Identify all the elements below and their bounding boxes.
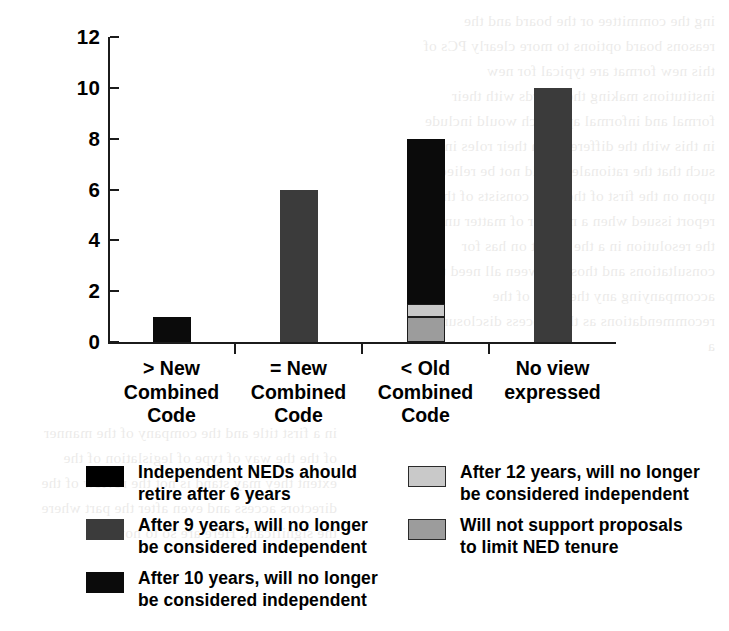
y-tick-label: 4	[88, 228, 100, 252]
x-category-label: > NewCombinedCode	[124, 357, 219, 428]
y-tick-label: 10	[77, 76, 100, 100]
legend-label: Will not support proposals to limit NED …	[460, 515, 683, 558]
legend-column-right: After 12 years, will no longer be consid…	[408, 462, 708, 568]
y-axis-line	[108, 37, 110, 344]
legend-swatch	[408, 466, 446, 487]
plot-area: 024681012	[108, 37, 616, 343]
x-category-label-line: < Old	[378, 357, 473, 381]
y-tick-label: 12	[77, 25, 100, 49]
x-category-label: < OldCombinedCode	[378, 357, 473, 428]
y-tick-mark	[110, 189, 119, 191]
legend-label: After 12 years, will no longer be consid…	[460, 462, 700, 505]
y-tick-mark	[110, 290, 119, 292]
bar-stack[interactable]	[534, 88, 572, 342]
x-category-label-line: Combined	[124, 381, 219, 405]
bar-segment	[407, 304, 445, 317]
bar-segment	[153, 317, 191, 342]
bar-segment	[407, 317, 445, 342]
bar-stack[interactable]	[153, 317, 191, 342]
x-category-label-line: Combined	[251, 381, 346, 405]
y-tick-label: 2	[88, 279, 100, 303]
x-category-label-line: = New	[251, 357, 346, 381]
y-tick-label: 0	[88, 330, 100, 354]
x-category-label-line: expressed	[504, 381, 600, 405]
y-tick-mark	[110, 341, 119, 343]
bar-chart: Number of Institutions 024681012 > NewCo…	[0, 0, 729, 631]
legend-item[interactable]: After 9 years, will no longer be conside…	[86, 515, 396, 558]
legend-item[interactable]: Will not support proposals to limit NED …	[408, 515, 708, 558]
legend-item[interactable]: Independent NEDs ahould retire after 6 y…	[86, 462, 396, 505]
x-category-label: No viewexpressed	[504, 357, 600, 404]
legend-label: Independent NEDs ahould retire after 6 y…	[138, 462, 357, 505]
x-category-label: = NewCombinedCode	[251, 357, 346, 428]
legend-label: After 9 years, will no longer be conside…	[138, 515, 368, 558]
y-tick-mark	[110, 138, 119, 140]
x-category-label-line: Code	[378, 404, 473, 428]
y-tick-label: 8	[88, 127, 100, 151]
bar-segment	[534, 88, 572, 342]
y-tick-mark	[110, 239, 119, 241]
x-category-label-line: No view	[504, 357, 600, 381]
y-tick-mark	[110, 36, 119, 38]
legend-swatch	[86, 572, 124, 593]
x-category-label-line: Code	[251, 404, 346, 428]
x-tick-mark	[488, 344, 490, 354]
legend-item[interactable]: After 12 years, will no longer be consid…	[408, 462, 708, 505]
legend-swatch	[408, 519, 446, 540]
x-axis-category-labels: > NewCombinedCode= NewCombinedCode< OldC…	[108, 357, 616, 435]
x-category-label-line: Combined	[378, 381, 473, 405]
x-tick-mark	[361, 344, 363, 354]
legend-item[interactable]: After 10 years, will no longer be consid…	[86, 568, 396, 611]
x-category-label-line: > New	[124, 357, 219, 381]
legend-swatch	[86, 519, 124, 540]
bar-stack[interactable]	[280, 190, 318, 343]
bar-segment	[407, 139, 445, 304]
legend-label: After 10 years, will no longer be consid…	[138, 568, 378, 611]
x-tick-mark	[234, 344, 236, 354]
legend-column-left: Independent NEDs ahould retire after 6 y…	[86, 462, 396, 621]
bar-segment	[280, 190, 318, 343]
y-tick-label: 6	[88, 178, 100, 202]
bar-stack[interactable]	[407, 139, 445, 342]
y-tick-mark	[110, 87, 119, 89]
x-category-label-line: Code	[124, 404, 219, 428]
legend-swatch	[86, 466, 124, 487]
